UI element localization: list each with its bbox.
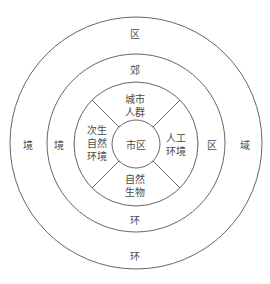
outer-ring-right-label: 域 (240, 139, 250, 152)
outer-ring-bottom-label: 环 (130, 250, 140, 263)
middle-ring-right-label: 区 (207, 139, 217, 152)
divider-top-right (153, 100, 180, 127)
sector-top-urban-population: 城市 人群 (125, 93, 145, 119)
sector-right-artificial-environment: 人工 环境 (166, 132, 186, 158)
outer-ring-top-label: 区 (130, 28, 140, 41)
middle-ring-left-label: 境 (54, 139, 64, 152)
divider-bottom-left (92, 161, 119, 188)
sector-left-secondary-natural-environment: 次生 自然 环境 (87, 124, 107, 163)
middle-ring-bottom-label: 环 (130, 214, 140, 227)
outer-ring-left-label: 境 (23, 139, 33, 152)
sector-bottom-natural-organisms: 自然 生物 (125, 173, 145, 199)
center-label-urban-district: 市区 (126, 139, 146, 152)
middle-ring-top-label: 郊 (130, 64, 140, 77)
divider-bottom-right (153, 161, 180, 188)
